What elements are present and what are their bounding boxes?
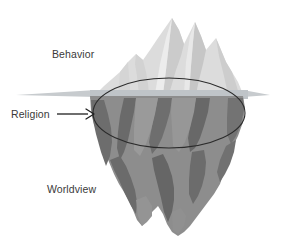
label-worldview: Worldview (47, 183, 96, 195)
label-behavior: Behavior (52, 48, 95, 60)
iceberg-diagram: Behavior Religion Worldview (0, 0, 285, 251)
label-religion: Religion (11, 108, 50, 120)
